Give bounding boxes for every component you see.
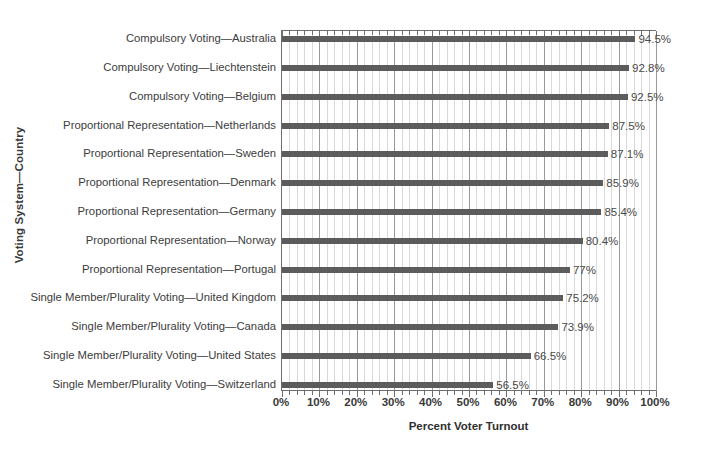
- tick-mark: [297, 391, 298, 395]
- tick-mark: [439, 391, 440, 395]
- tick-mark: [372, 391, 373, 395]
- tick-mark: [312, 391, 313, 395]
- tick-mark: [327, 391, 328, 395]
- x-tick-label: 80%: [569, 396, 592, 408]
- category-label: Compulsory Voting—Liechtenstein: [18, 61, 276, 73]
- category-label: Proportional Representation—Netherlands: [18, 119, 276, 131]
- category-label: Compulsory Voting—Belgium: [18, 90, 276, 102]
- category-label: Proportional Representation—Germany: [18, 205, 276, 217]
- voter-turnout-bar-chart: Voting System—Country Compulsory Voting—…: [0, 0, 702, 465]
- tick-mark: [514, 391, 515, 395]
- tick-mark: [604, 391, 605, 395]
- gridline-major: [656, 31, 657, 391]
- tick-mark: [476, 391, 477, 395]
- bar: [282, 123, 609, 129]
- category-label: Single Member/Plurality Voting—Canada: [18, 320, 276, 332]
- bar: [282, 209, 601, 215]
- tick-mark: [649, 391, 650, 395]
- bar-value-label: 56.5%: [496, 379, 529, 391]
- bar: [282, 65, 629, 71]
- category-label: Compulsory Voting—Australia: [18, 32, 276, 44]
- bar-value-label: 92.8%: [632, 62, 665, 74]
- tick-mark: [334, 391, 335, 395]
- bar: [282, 180, 603, 186]
- tick-mark: [424, 391, 425, 395]
- tick-mark: [521, 391, 522, 395]
- category-label: Single Member/Plurality Voting—United St…: [18, 349, 276, 361]
- bar-value-label: 77%: [573, 264, 596, 276]
- category-label: Proportional Representation—Denmark: [18, 176, 276, 188]
- tick-mark: [402, 391, 403, 395]
- tick-mark: [349, 391, 350, 395]
- bar-value-label: 80.4%: [586, 235, 619, 247]
- tick-mark: [364, 391, 365, 395]
- tick-mark: [304, 391, 305, 395]
- tick-mark: [484, 391, 485, 395]
- category-label: Single Member/Plurality Voting—Switzerla…: [18, 378, 276, 390]
- bar: [282, 94, 628, 100]
- tick-mark: [574, 391, 575, 395]
- tick-mark: [289, 391, 290, 395]
- tick-mark: [417, 391, 418, 395]
- tick-mark: [536, 391, 537, 395]
- tick-mark: [559, 391, 560, 395]
- tick-mark: [491, 391, 492, 395]
- tick-mark: [387, 391, 388, 395]
- x-axis-line: [281, 390, 656, 391]
- bar: [282, 353, 531, 359]
- x-tick-label: 20%: [344, 396, 367, 408]
- bar-value-label: 87.5%: [612, 120, 645, 132]
- bar: [282, 238, 583, 244]
- x-tick-label: 50%: [456, 396, 479, 408]
- tick-mark: [589, 391, 590, 395]
- x-tick-label: 90%: [606, 396, 629, 408]
- x-tick-label: 70%: [531, 396, 554, 408]
- bar-value-label: 85.9%: [606, 177, 639, 189]
- tick-mark: [342, 391, 343, 395]
- bar-value-label: 92.5%: [631, 91, 664, 103]
- bar: [282, 295, 563, 301]
- tick-mark: [551, 391, 552, 395]
- tick-mark: [499, 391, 500, 395]
- tick-mark: [566, 391, 567, 395]
- x-tick-label: 100%: [640, 396, 669, 408]
- tick-mark: [462, 391, 463, 395]
- bar-value-label: 75.2%: [566, 292, 599, 304]
- category-label: Proportional Representation—Sweden: [18, 147, 276, 159]
- bar: [282, 382, 493, 388]
- bar: [282, 151, 608, 157]
- category-label-column: Compulsory Voting—AustraliaCompulsory Vo…: [18, 20, 276, 392]
- x-tick-label: 10%: [307, 396, 330, 408]
- x-tick-label: 60%: [494, 396, 517, 408]
- bar: [282, 267, 570, 273]
- category-label: Single Member/Plurality Voting—United Ki…: [18, 291, 276, 303]
- tick-mark: [454, 391, 455, 395]
- bar-value-label: 66.5%: [534, 350, 567, 362]
- tick-mark: [596, 391, 597, 395]
- tick-mark: [634, 391, 635, 395]
- bar-value-label: 73.9%: [561, 321, 594, 333]
- category-label: Proportional Representation—Norway: [18, 234, 276, 246]
- tick-mark: [409, 391, 410, 395]
- tick-mark: [447, 391, 448, 395]
- bar-value-label: 85.4%: [604, 206, 637, 218]
- tick-mark: [641, 391, 642, 395]
- x-axis-tick-labels: 0%10%20%30%40%50%60%70%80%90%100%: [281, 396, 656, 412]
- bar: [282, 36, 635, 42]
- bar-value-label: 94.5%: [638, 33, 671, 45]
- tick-mark: [379, 391, 380, 395]
- tick-mark: [626, 391, 627, 395]
- x-tick-label: 0%: [273, 396, 290, 408]
- bar: [282, 324, 558, 330]
- tick-mark: [529, 391, 530, 395]
- x-tick-label: 40%: [419, 396, 442, 408]
- plot-area: 94.5%92.8%92.5%87.5%87.1%85.9%85.4%80.4%…: [281, 30, 656, 391]
- bar-value-label: 87.1%: [611, 148, 644, 160]
- bar-series: 94.5%92.8%92.5%87.5%87.1%85.9%85.4%80.4%…: [282, 31, 656, 391]
- x-axis-title: Percent Voter Turnout: [281, 420, 656, 432]
- category-label: Proportional Representation—Portugal: [18, 263, 276, 275]
- x-tick-label: 30%: [382, 396, 405, 408]
- tick-mark: [611, 391, 612, 395]
